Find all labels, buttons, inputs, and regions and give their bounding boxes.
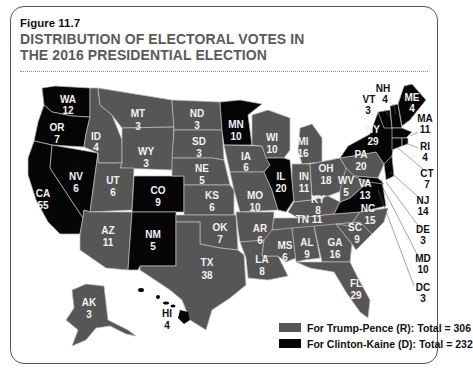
svg-text:3: 3	[86, 309, 92, 320]
svg-text:3: 3	[194, 120, 200, 131]
svg-text:NJ: NJ	[417, 195, 430, 206]
svg-text:4: 4	[164, 320, 170, 331]
state-ri	[402, 138, 408, 146]
svg-text:4: 4	[409, 103, 415, 114]
republican-swatch	[279, 323, 301, 332]
svg-text:MT: MT	[131, 108, 145, 119]
svg-text:10: 10	[417, 264, 429, 275]
svg-text:OR: OR	[50, 122, 66, 133]
svg-text:9: 9	[304, 249, 310, 260]
svg-text:3: 3	[143, 158, 149, 169]
svg-text:DC: DC	[416, 282, 430, 293]
svg-text:3: 3	[135, 121, 141, 132]
democrat-swatch	[279, 339, 301, 348]
svg-text:3: 3	[420, 235, 426, 246]
svg-text:NC: NC	[361, 203, 375, 214]
svg-text:TX: TX	[201, 257, 214, 268]
svg-text:6: 6	[110, 187, 116, 198]
svg-text:MN: MN	[228, 119, 244, 130]
svg-text:10: 10	[230, 131, 242, 142]
svg-text:WI: WI	[266, 132, 278, 143]
svg-text:AL: AL	[300, 237, 313, 248]
svg-text:11: 11	[103, 237, 114, 248]
svg-text:13: 13	[359, 190, 371, 201]
svg-text:AZ: AZ	[101, 225, 114, 236]
svg-text:9: 9	[354, 234, 360, 245]
svg-text:MO: MO	[247, 190, 263, 201]
legend: For Trump-Pence (R): Total = 306 For Cli…	[279, 320, 473, 352]
state-ct	[392, 138, 402, 150]
svg-text:HI: HI	[162, 308, 172, 319]
svg-text:18: 18	[320, 175, 332, 186]
svg-text:SD: SD	[192, 136, 206, 147]
svg-text:4: 4	[382, 94, 388, 105]
svg-text:14: 14	[417, 206, 429, 217]
svg-text:11: 11	[299, 183, 310, 194]
svg-text:16: 16	[297, 148, 309, 159]
state-ak	[66, 284, 136, 346]
svg-text:NM: NM	[145, 229, 161, 240]
svg-text:5: 5	[199, 175, 205, 186]
svg-text:55: 55	[37, 200, 49, 211]
svg-text:MS: MS	[278, 240, 293, 251]
svg-text:UT: UT	[106, 175, 119, 186]
svg-text:NH: NH	[376, 83, 390, 94]
svg-text:12: 12	[62, 105, 74, 116]
svg-text:LA: LA	[255, 254, 268, 265]
svg-text:OH: OH	[319, 163, 334, 174]
svg-text:ND: ND	[190, 108, 204, 119]
svg-text:6: 6	[282, 252, 288, 263]
svg-text:CO: CO	[151, 185, 166, 196]
svg-text:29: 29	[367, 136, 379, 147]
svg-text:PA: PA	[354, 149, 367, 160]
svg-text:38: 38	[201, 270, 213, 281]
svg-text:WV: WV	[338, 175, 354, 186]
svg-text:4: 4	[93, 142, 99, 153]
legend-republican: For Trump-Pence (R): Total = 306	[279, 320, 473, 335]
svg-text:8: 8	[259, 266, 265, 277]
svg-text:NE: NE	[195, 163, 209, 174]
svg-text:29: 29	[350, 290, 362, 301]
svg-text:MD: MD	[415, 253, 431, 264]
svg-text:GA: GA	[328, 237, 343, 248]
svg-text:20: 20	[275, 183, 287, 194]
svg-text:6: 6	[73, 183, 79, 194]
svg-text:16: 16	[329, 249, 341, 260]
svg-text:SC: SC	[348, 222, 362, 233]
svg-text:7: 7	[424, 179, 430, 190]
svg-text:3: 3	[365, 105, 371, 116]
svg-text:5: 5	[343, 187, 349, 198]
legend-republican-label: For Trump-Pence (R): Total = 306	[307, 322, 471, 334]
svg-text:OK: OK	[213, 222, 229, 233]
svg-text:IN: IN	[299, 171, 309, 182]
svg-text:RI: RI	[420, 141, 430, 152]
svg-text:5: 5	[150, 241, 156, 252]
svg-text:IA: IA	[241, 151, 251, 162]
svg-text:4: 4	[422, 152, 428, 163]
svg-text:NV: NV	[69, 171, 83, 182]
svg-text:20: 20	[355, 161, 367, 172]
svg-text:DE: DE	[416, 224, 430, 235]
svg-text:ME: ME	[405, 92, 420, 103]
svg-text:6: 6	[243, 162, 249, 173]
state-ma	[392, 128, 412, 138]
svg-text:3: 3	[196, 148, 202, 159]
svg-text:WA: WA	[60, 94, 76, 105]
svg-text:TN 11: TN 11	[296, 214, 323, 225]
svg-text:ID: ID	[91, 131, 101, 142]
svg-text:NY: NY	[366, 124, 380, 135]
svg-text:KY: KY	[311, 194, 325, 205]
svg-text:MI: MI	[297, 136, 308, 147]
legend-democrat: For Clinton-Kaine (D): Total = 232	[279, 336, 473, 351]
svg-text:FL: FL	[350, 278, 362, 289]
svg-text:15: 15	[364, 215, 376, 226]
svg-text:3: 3	[420, 293, 426, 304]
svg-text:KS: KS	[205, 190, 219, 201]
svg-text:VT: VT	[363, 94, 376, 105]
svg-text:10: 10	[249, 202, 261, 213]
svg-text:7: 7	[217, 234, 223, 245]
svg-text:AR: AR	[253, 223, 268, 234]
svg-text:WY: WY	[138, 146, 154, 157]
svg-text:AK: AK	[82, 297, 97, 308]
